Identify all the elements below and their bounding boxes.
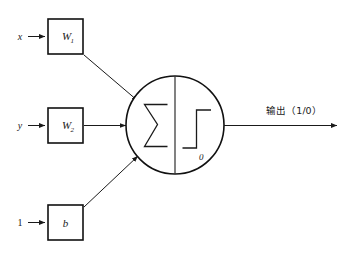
weight-box-label-bias: b (63, 217, 69, 229)
input-source-label-x: x (17, 31, 23, 42)
input-source-label-bias: 1 (18, 217, 23, 228)
input-group-y: y W 2 (17, 108, 83, 143)
threshold-label: 0 (199, 152, 204, 162)
input-group-bias: 1 b (18, 205, 84, 240)
input-group-x: x W 1 (17, 19, 83, 54)
output-label: 输出（1/0） (266, 105, 321, 116)
input-source-label-y: y (17, 120, 23, 131)
output-group: 输出（1/0） (224, 105, 337, 126)
weight-box-subscript-w1: 1 (71, 37, 75, 45)
neuron-body[interactable]: 0 (126, 76, 224, 174)
connection-bias-to-neuron (84, 156, 138, 207)
connection-w1-to-neuron (84, 55, 138, 101)
weight-box-subscript-w2: 2 (71, 126, 75, 134)
neuron-diagram: x W 1 y W 2 1 b 0 (0, 0, 346, 255)
